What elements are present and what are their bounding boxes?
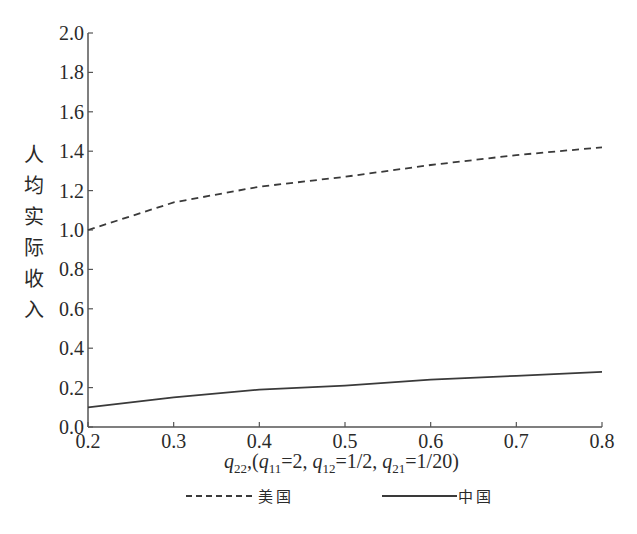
- y-tick-label: 1.6: [59, 101, 84, 123]
- x-tick-label: 0.6: [418, 430, 443, 452]
- y-tick-label: 1.0: [59, 219, 84, 241]
- x-tick-label: 0.7: [504, 430, 529, 452]
- x-tick-label: 0.5: [333, 430, 358, 452]
- y-label-char: 际: [24, 236, 44, 260]
- x-tick-label: 0.2: [76, 430, 101, 452]
- y-tick-label: 0.6: [59, 298, 84, 320]
- y-tick-label: 0.4: [59, 337, 84, 359]
- legend-label-china: 中国: [458, 488, 494, 506]
- y-tick-label: 0.2: [59, 377, 84, 399]
- y-tick-label: 1.2: [59, 180, 84, 202]
- y-label-char: 收: [24, 267, 44, 291]
- y-label-char: 入: [24, 298, 44, 322]
- legend-item-china: 中国: [382, 488, 494, 506]
- y-axis-label: 人均实际收入: [24, 143, 44, 322]
- x-tick-label: 0.8: [590, 430, 615, 452]
- y-label-char: 人: [24, 143, 44, 167]
- y-tick-label: 1.4: [59, 140, 84, 162]
- y-tick-label: 2.0: [59, 22, 84, 44]
- legend-item-us: 美国: [186, 488, 294, 506]
- y-label-char: 实: [24, 205, 44, 229]
- x-tick-label: 0.4: [247, 430, 272, 452]
- series-lines: [88, 147, 602, 407]
- china-solid-line: [88, 372, 602, 408]
- y-tick-label: 0.8: [59, 258, 84, 280]
- x-axis-label: q22,(q11=2, q12=1/2, q21=1/20): [224, 450, 459, 476]
- line-chart: 0.00.20.40.60.81.01.21.41.61.82.00.20.30…: [0, 0, 637, 534]
- us-dashed-line: [88, 147, 602, 230]
- y-label-char: 均: [24, 174, 44, 198]
- x-tick-label: 0.3: [161, 430, 186, 452]
- axes: 0.00.20.40.60.81.01.21.41.61.82.00.20.30…: [59, 22, 615, 452]
- legend: 美国 中国: [186, 488, 494, 506]
- y-tick-label: 1.8: [59, 61, 84, 83]
- legend-label-us: 美国: [258, 488, 294, 506]
